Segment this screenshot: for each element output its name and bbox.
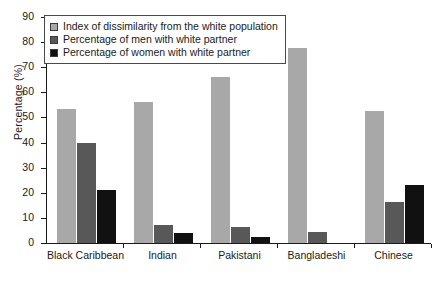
legend-swatch-icon <box>50 36 58 44</box>
x-axis-category-label: Black Caribbean <box>47 249 124 261</box>
bar <box>288 48 307 243</box>
y-axis-tick: 50 <box>41 117 46 118</box>
bar <box>231 227 250 243</box>
bar <box>57 109 76 243</box>
bar <box>134 102 153 243</box>
y-axis-tick-label: 90 <box>22 10 34 22</box>
legend-item: Percentage of men with white partner <box>50 33 278 46</box>
x-axis-category-label: Bangladeshi <box>278 249 355 261</box>
chart-legend: Index of dissimilarity from the white po… <box>44 15 286 64</box>
bar <box>251 237 270 243</box>
x-axis-tick <box>200 244 201 248</box>
bar <box>211 77 230 243</box>
bar <box>385 202 404 243</box>
x-axis-tick <box>354 244 355 248</box>
y-axis-tick-label: 20 <box>22 186 34 198</box>
y-axis-tick-label: 80 <box>22 35 34 47</box>
x-axis-tick <box>431 244 432 248</box>
y-axis-tick: 60 <box>41 92 46 93</box>
y-axis-tick-label: 0 <box>28 236 34 248</box>
bar <box>154 225 173 243</box>
x-axis-line <box>46 243 431 244</box>
legend-item-label: Percentage of men with white partner <box>63 33 237 46</box>
y-axis-tick-label: 10 <box>22 211 34 223</box>
y-axis-tick: 30 <box>41 168 46 169</box>
x-axis-category-label: Indian <box>124 249 201 261</box>
bar <box>365 111 384 243</box>
legend-item: Percentage of women with white partner <box>50 46 278 59</box>
y-axis-tick: 40 <box>41 143 46 144</box>
y-axis-tick: 70 <box>41 67 46 68</box>
y-axis-tick: 10 <box>41 218 46 219</box>
bar <box>308 232 327 243</box>
legend-swatch-icon <box>50 49 58 57</box>
y-axis-tick-label: 70 <box>22 60 34 72</box>
bar-group <box>288 18 347 243</box>
bar-chart: Percentage (%) 0102030405060708090 Black… <box>0 0 437 283</box>
y-axis-tick-label: 50 <box>22 110 34 122</box>
y-axis-tick: 20 <box>41 193 46 194</box>
x-axis-tick <box>123 244 124 248</box>
legend-item: Index of dissimilarity from the white po… <box>50 20 278 33</box>
bar <box>405 185 424 243</box>
bar <box>77 143 96 243</box>
x-axis-category-label: Pakistani <box>201 249 278 261</box>
legend-swatch-icon <box>50 23 58 31</box>
y-axis-tick: 0 <box>41 243 46 244</box>
bar-group <box>365 18 424 243</box>
legend-item-label: Index of dissimilarity from the white po… <box>63 20 278 33</box>
y-axis-tick-label: 60 <box>22 85 34 97</box>
bar <box>97 190 116 243</box>
legend-item-label: Percentage of women with white partner <box>63 46 250 59</box>
x-axis-tick <box>277 244 278 248</box>
y-axis-tick-label: 30 <box>22 161 34 173</box>
y-axis-tick-label: 40 <box>22 136 34 148</box>
bar <box>174 233 193 243</box>
x-axis-category-label: Chinese <box>355 249 432 261</box>
